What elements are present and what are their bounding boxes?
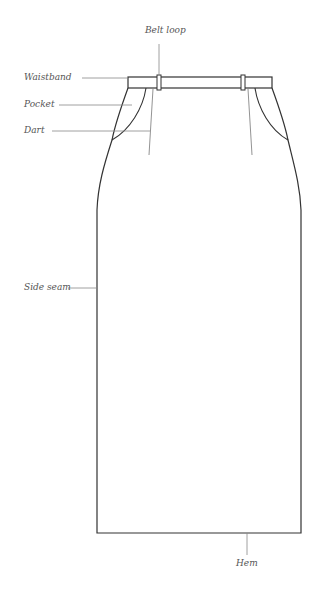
waistband	[128, 77, 272, 88]
pocket-label: Pocket	[24, 99, 55, 109]
dart-left	[149, 89, 153, 155]
belt-loop-label: Belt loop	[145, 25, 186, 35]
dart-label: Dart	[24, 125, 45, 135]
hem-label: Hem	[236, 558, 258, 568]
waistband-label: Waistband	[24, 72, 72, 82]
dart-right	[248, 89, 252, 155]
pocket-left	[112, 88, 146, 140]
pocket-right	[255, 88, 288, 140]
belt-loop-right	[241, 75, 245, 90]
skirt-diagram	[0, 0, 317, 589]
belt-loop-left	[157, 75, 161, 90]
skirt-outline	[97, 88, 301, 533]
side-seam-label: Side seam	[24, 282, 71, 292]
